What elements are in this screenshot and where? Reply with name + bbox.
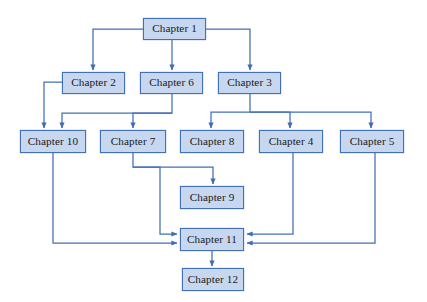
node-label: Chapter 7 xyxy=(111,136,156,147)
node-ch4[interactable]: Chapter 4 xyxy=(259,130,323,153)
node-ch9[interactable]: Chapter 9 xyxy=(180,186,244,209)
node-label: Chapter 3 xyxy=(227,77,272,88)
node-layer: Chapter 1Chapter 2Chapter 6Chapter 3Chap… xyxy=(0,0,427,302)
node-ch3[interactable]: Chapter 3 xyxy=(218,72,281,94)
node-ch12[interactable]: Chapter 12 xyxy=(182,268,244,291)
node-label: Chapter 10 xyxy=(28,136,78,147)
node-label: Chapter 6 xyxy=(149,77,194,88)
node-label: Chapter 4 xyxy=(269,136,314,147)
node-ch10[interactable]: Chapter 10 xyxy=(20,130,86,153)
node-ch5[interactable]: Chapter 5 xyxy=(340,130,404,153)
node-label: Chapter 1 xyxy=(152,23,197,34)
node-ch11[interactable]: Chapter 11 xyxy=(180,228,244,251)
node-ch7[interactable]: Chapter 7 xyxy=(100,130,166,153)
node-label: Chapter 8 xyxy=(190,136,235,147)
node-label: Chapter 9 xyxy=(190,192,235,203)
node-label: Chapter 5 xyxy=(350,136,395,147)
node-ch1[interactable]: Chapter 1 xyxy=(143,18,206,40)
node-label: Chapter 12 xyxy=(188,274,238,285)
node-ch2[interactable]: Chapter 2 xyxy=(62,72,125,94)
node-label: Chapter 2 xyxy=(71,77,116,88)
node-label: Chapter 11 xyxy=(187,234,237,245)
node-ch6[interactable]: Chapter 6 xyxy=(140,72,203,94)
flowchart-diagram: Chapter 1Chapter 2Chapter 6Chapter 3Chap… xyxy=(0,0,427,302)
node-ch8[interactable]: Chapter 8 xyxy=(180,130,244,153)
